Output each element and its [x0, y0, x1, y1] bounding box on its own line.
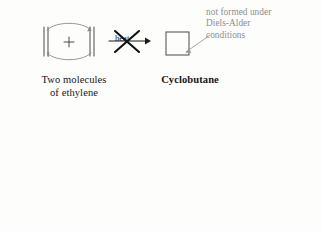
arrowhead-icon [145, 38, 151, 45]
annotation-line: not formed under [206, 7, 271, 18]
heat-condition-label-top: heat [115, 33, 129, 43]
ethylene-reactants-structure [40, 22, 98, 64]
annotation-not-formed-top: not formed under Diels-Alder conditions [206, 7, 271, 41]
caption-line: Cyclobutane [138, 74, 242, 87]
caption-line: Two molecules [18, 74, 130, 87]
annotation-line: conditions [206, 30, 271, 41]
caption-ethylene-reactants: Two molecules of ethylene [18, 74, 130, 99]
chemistry-scheme-figure: heat not formed under Diels-Alder condit… [0, 0, 322, 231]
caption-cyclobutane: Cyclobutane [138, 74, 242, 87]
annotation-line: Diels-Alder [206, 18, 271, 29]
plus-sign-icon [64, 37, 74, 47]
caption-line: of ethylene [18, 87, 130, 100]
reaction-scheme-butadiene: heat not formed under Diels-Alder condit… [0, 115, 322, 230]
reaction-scheme-ethylene: heat not formed under Diels-Alder condit… [0, 0, 322, 115]
